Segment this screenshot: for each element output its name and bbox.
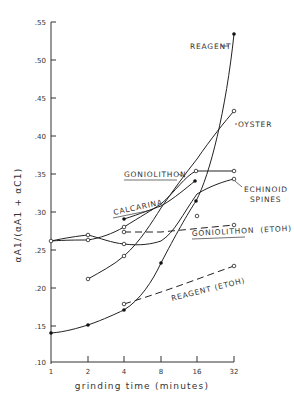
label-reagent-etoh: REAGENT (ETOH) <box>170 276 246 303</box>
series-oyster-line <box>88 111 234 279</box>
label-goniolithon: GONIOLITHON <box>124 170 186 179</box>
x-tick-label: 8 <box>159 368 163 376</box>
x-axis-title: grinding time (minutes) <box>75 381 209 391</box>
label-goniolithon-etoh: GONIOLITHON (ETOH) <box>192 224 292 238</box>
leader-echinoid <box>235 181 242 187</box>
label-goniolithon-etoh-name: GONIOLITHON <box>192 226 255 238</box>
y-tick-label: .30 <box>35 209 46 217</box>
y-tick-label: .10 <box>35 359 46 367</box>
y-tick-label: .55 <box>35 19 46 27</box>
x-axis <box>51 356 234 362</box>
label-goniolithon-etoh-suffix: (ETOH) <box>260 224 292 235</box>
label-echinoid-2: SPINES <box>250 195 281 204</box>
y-tick-label: .35 <box>35 171 46 179</box>
y-axis-title: αA1/(αA1 + αC1) <box>13 168 23 263</box>
y-tick-label: .50 <box>35 57 46 65</box>
y-axis <box>51 22 56 364</box>
y-tick-label: .20 <box>35 285 46 293</box>
x-tick-labels: 1 2 4 8 16 32 <box>49 368 239 376</box>
label-oyster: OYSTER <box>238 120 272 129</box>
x-tick-label: 2 <box>86 368 90 376</box>
y-tick-label: .45 <box>35 95 46 103</box>
x-tick-label: 16 <box>193 368 202 376</box>
y-tick-label: .15 <box>35 323 46 331</box>
chart: .10 .15 .20 .25 .30 .35 .40 .45 .50 .55 … <box>0 0 294 395</box>
x-tick-label: 32 <box>230 368 239 376</box>
y-tick-label: .25 <box>35 247 46 255</box>
y-tick-label: .40 <box>35 133 46 141</box>
x-tick-label: 1 <box>49 368 53 376</box>
label-reagent: REAGENT <box>190 42 231 51</box>
y-tick-labels: .10 .15 .20 .25 .30 .35 .40 .45 .50 .55 <box>35 19 46 367</box>
x-tick-label: 4 <box>122 368 127 376</box>
label-echinoid-1: ECHINOID <box>244 185 288 194</box>
